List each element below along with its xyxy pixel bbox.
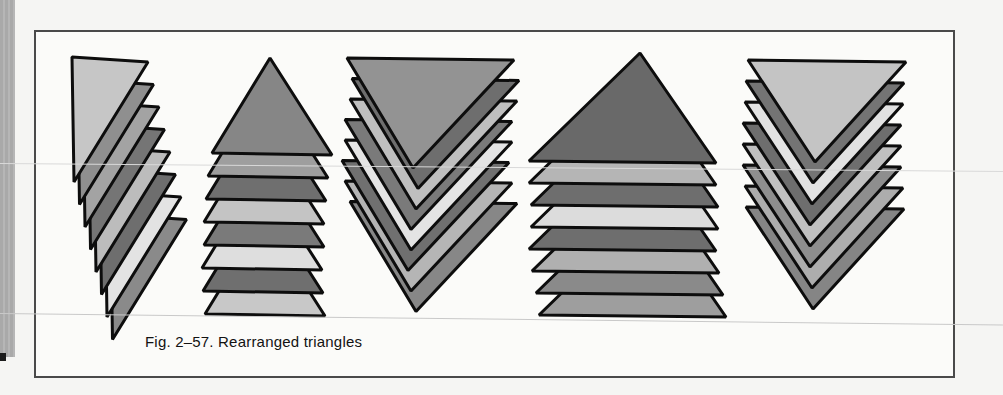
triangle-group-inverted-cascade-right [743, 60, 906, 309]
triangle-group-diagonal-cascade [72, 57, 187, 340]
triangle-layer [529, 53, 716, 163]
triangle-group-upright-stack-wide [529, 53, 726, 317]
figure-caption: Fig. 2–57. Rearranged triangles [145, 333, 362, 350]
triangle-layer [212, 58, 332, 155]
scanned-page: Fig. 2–57. Rearranged triangles [0, 0, 1003, 395]
triangle-group-inverted-cascade-left [342, 58, 519, 312]
triangle-group-upright-stack-narrow [202, 58, 332, 316]
